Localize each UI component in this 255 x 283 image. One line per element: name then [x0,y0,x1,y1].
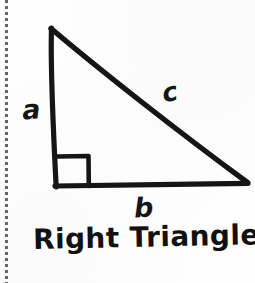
side-label-a: a [21,95,41,123]
right-angle-marker [58,156,89,186]
figure-canvas: a c b Right Triangle [0,0,255,283]
figure-caption: Right Triangle [33,222,244,254]
triangle-hypotenuse-c [51,29,248,183]
side-label-b: b [133,194,154,222]
triangle-leg-a [51,28,56,187]
triangle-leg-b [55,183,248,186]
